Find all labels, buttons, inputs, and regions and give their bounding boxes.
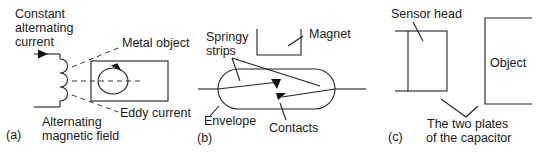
label-eddy-current: Eddy current bbox=[120, 106, 191, 120]
label-alternating: alternating bbox=[15, 21, 73, 35]
panel-a-tag: (a) bbox=[6, 128, 21, 142]
label-contacts: Contacts bbox=[269, 121, 318, 135]
panel-b-reed-switch: Magnet Springy strips Envelope Contacts … bbox=[197, 27, 366, 145]
panel-b-tag: (b) bbox=[197, 131, 212, 145]
field-line-lower bbox=[72, 95, 118, 112]
label-alternating-field: Alternating bbox=[42, 115, 102, 129]
label-sensor-head: Sensor head bbox=[391, 7, 462, 21]
current-arrow-icon bbox=[38, 50, 48, 59]
label-current: current bbox=[15, 35, 54, 49]
strip-right bbox=[282, 89, 335, 97]
plates-leader-left bbox=[441, 99, 466, 117]
panel-a-eddy-current-sensor: Constant alternating current Metal objec… bbox=[6, 7, 191, 143]
label-springy-text: Springy bbox=[206, 30, 249, 44]
proximity-sensors-figure: Constant alternating current Metal objec… bbox=[0, 0, 546, 154]
glass-envelope bbox=[218, 69, 335, 109]
coil-icon bbox=[60, 59, 68, 101]
plates-leader-right bbox=[466, 106, 478, 117]
contact-upper-icon bbox=[271, 79, 281, 89]
label-constant: Constant bbox=[15, 7, 66, 21]
label-envelope: Envelope bbox=[204, 114, 256, 128]
label-strips: strips bbox=[206, 44, 236, 58]
sensor-head bbox=[408, 31, 447, 91]
label-magnet: Magnet bbox=[309, 27, 351, 41]
field-line-upper bbox=[72, 48, 118, 67]
contacts-leader bbox=[280, 103, 286, 120]
strip-left bbox=[218, 82, 279, 89]
label-two-plates: The two plates bbox=[427, 117, 508, 131]
label-magnetic-field: magnetic field bbox=[42, 129, 119, 143]
label-of-capacitor: of the capacitor bbox=[426, 131, 511, 145]
panel-c-capacitive-sensor: Sensor head Object The two plates of the… bbox=[388, 7, 532, 145]
label-object: Object bbox=[490, 56, 527, 70]
panel-c-tag: (c) bbox=[388, 130, 403, 144]
label-metal-object: Metal object bbox=[122, 36, 190, 50]
